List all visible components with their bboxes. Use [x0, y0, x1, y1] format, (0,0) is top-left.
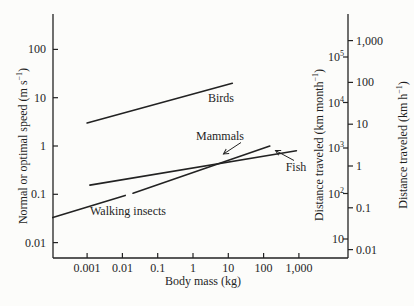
y-tick-label-speed: 1	[40, 140, 46, 153]
y-tick-label-distance-month: 104	[328, 96, 344, 109]
y-axis-label-distance-month: Distance traveled (km month−1)	[312, 69, 327, 221]
x-tick-label: 0.01	[112, 262, 133, 275]
y-tick-label-speed: 10	[34, 91, 46, 104]
x-tick-label: 0.001	[74, 262, 101, 275]
y-axis-label-speed: Normal or optimal speed (m s−1)	[16, 68, 31, 224]
y-tick-label-distance-hour: 1,000	[356, 34, 383, 47]
series-label-birds: Birds	[208, 91, 234, 106]
y-tick-label-distance-hour: 1	[356, 160, 362, 173]
y-tick-label-distance-hour: 100	[356, 76, 374, 89]
y-tick-label-speed: 0.01	[25, 236, 46, 249]
y-tick-label-speed: 100	[28, 43, 46, 56]
x-axis-label: Body mass (kg)	[165, 274, 241, 289]
y-tick-label-distance-hour: 0.1	[356, 201, 371, 214]
series-label-walking-insects: Walking insects	[90, 204, 166, 219]
series-label-fish: Fish	[286, 160, 307, 175]
y-tick-label-distance-month: 105	[328, 51, 344, 64]
plot-canvas	[0, 0, 414, 306]
mammals-arrow	[224, 143, 242, 155]
y-tick-label-distance-month: 103	[328, 142, 344, 155]
y-tick-label-distance-month: 102	[328, 187, 344, 200]
chart-figure: 0.0010.010.11101001,0001001010.10.011051…	[0, 0, 414, 306]
y-tick-label-speed: 0.1	[31, 188, 46, 201]
series-line-fish	[90, 151, 297, 185]
x-tick-label: 0.1	[150, 262, 165, 275]
y-axis-label-distance-hour: Distance traveled (km h−1)	[396, 81, 411, 208]
x-tick-label: 100	[255, 262, 273, 275]
y-tick-label-distance-hour: 10	[356, 118, 368, 131]
y-tick-label-distance-hour: 0.01	[356, 243, 377, 256]
series-line-mammals	[133, 146, 270, 193]
x-tick-label: 1,000	[285, 262, 312, 275]
y-tick-label-distance-month: 10	[332, 233, 344, 246]
series-label-mammals: Mammals	[196, 129, 244, 144]
